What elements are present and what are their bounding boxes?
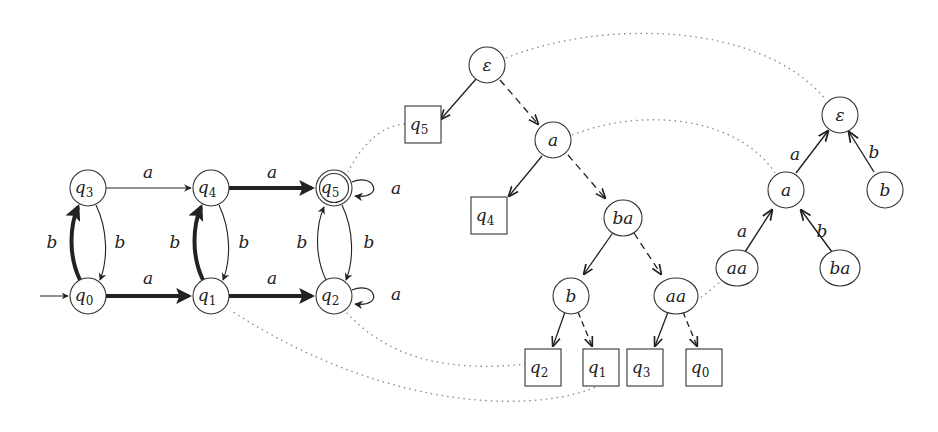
classification-tree: ε a ba b aa q5 q4 q2 (405, 47, 722, 386)
prefix-node-ba: ba (820, 250, 860, 286)
prefix-node-aa: aa (716, 250, 758, 286)
label-q2-loop: a (391, 284, 401, 304)
prefix-node-eps: ε (822, 97, 858, 133)
svg-text:a: a (548, 130, 558, 150)
tree-edge-a-q4 (509, 156, 542, 196)
svg-text:ε: ε (835, 105, 844, 125)
label-q5-q2: b (364, 232, 375, 252)
svg-text:b: b (880, 180, 891, 200)
tree-leaf-q4: q4 (471, 197, 507, 234)
label-q0-q1: a (143, 268, 153, 288)
tree-edge-eps-q5 (441, 79, 476, 119)
label-q4-q1: b (239, 232, 250, 252)
tree-leaf-q1: q1 (583, 349, 619, 386)
prefix-label-ba-a: b (817, 221, 828, 241)
prefix-tree: a b a b ε a b aa ba (716, 97, 903, 286)
label-q0-q3: b (47, 232, 58, 252)
tree-node-ba: ba (604, 200, 642, 236)
tree-leaf-q3: q3 (627, 349, 663, 386)
tree-edge-ba-b (584, 234, 612, 274)
svg-text:ba: ba (829, 258, 850, 278)
state-q1: q1 (193, 278, 229, 314)
tree-edge-eps-a (500, 80, 538, 124)
prefix-edge-aa-a (745, 210, 772, 252)
dotted-a-to-a (572, 120, 775, 173)
tree-edge-ba-aa (634, 233, 661, 274)
prefix-label-b-eps: b (869, 142, 880, 162)
prefix-node-b: b (867, 172, 903, 208)
state-q3: q3 (70, 170, 106, 206)
prefix-label-aa-a: a (737, 221, 747, 241)
label-q1-q4: b (170, 232, 181, 252)
loop-q5 (352, 180, 374, 197)
dotted-q5-leaf-to-q5-state (348, 124, 405, 172)
dotted-q2-leaf-to-q2-state (346, 312, 526, 366)
label-q3-q0: b (115, 232, 126, 252)
prefix-node-a: a (768, 172, 804, 208)
edge-q4-q1 (219, 205, 229, 280)
loop-q2 (352, 288, 374, 305)
svg-text:aa: aa (666, 286, 686, 306)
svg-text:b: b (566, 286, 577, 306)
state-q0-initial: q0 (70, 278, 106, 314)
label-q3-q4: a (143, 162, 153, 182)
dfa: a a a a a a b b b b b b q3 q4 q5 q0 (40, 162, 401, 314)
tree-leaf-q5: q5 (405, 106, 441, 143)
tree-edge-b-q2 (553, 312, 565, 346)
edge-q0-q3 (72, 207, 81, 280)
diagram-canvas: a a a a a a b b b b b b q3 q4 q5 q0 (0, 0, 938, 432)
tree-edge-b-q1 (578, 312, 592, 346)
dotted-aa-to-aa (696, 282, 720, 300)
tree-node-b: b (553, 278, 589, 314)
tree-node-a: a (535, 122, 571, 158)
svg-text:a: a (781, 180, 791, 200)
label-q1-q2: a (267, 268, 277, 288)
svg-text:ba: ba (612, 208, 633, 228)
prefix-edge-a-eps (796, 131, 828, 173)
prefix-label-a-eps: a (790, 144, 800, 164)
dotted-eps-to-eps (506, 33, 826, 100)
correspondence-lines (230, 33, 826, 401)
tree-edge-aa-q0 (683, 312, 697, 346)
label-q2-q5: b (297, 232, 308, 252)
label-q5-loop: a (391, 178, 401, 198)
svg-text:ε: ε (482, 55, 491, 75)
edge-q2-q5 (318, 207, 327, 280)
state-q4: q4 (193, 170, 229, 206)
edge-q5-q2 (342, 205, 352, 280)
tree-edge-a-ba (568, 155, 605, 198)
state-q5-accepting: q5 (316, 170, 352, 206)
tree-node-aa: aa (654, 278, 698, 314)
label-q4-q5: a (267, 162, 277, 182)
tree-leaf-q2: q2 (525, 349, 561, 386)
state-q2: q2 (316, 278, 352, 314)
tree-edge-aa-q3 (655, 312, 668, 346)
svg-text:aa: aa (727, 258, 747, 278)
tree-node-eps: ε (469, 47, 505, 83)
edge-q3-q0 (96, 205, 106, 280)
edge-q1-q4 (195, 207, 204, 280)
tree-leaf-q0: q0 (686, 349, 722, 386)
